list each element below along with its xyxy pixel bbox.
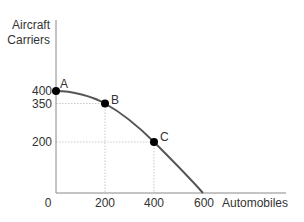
point-c-marker bbox=[150, 138, 158, 146]
point-c-label: C bbox=[160, 130, 169, 144]
point-a-label: A bbox=[60, 77, 68, 91]
point-b-marker bbox=[101, 100, 109, 108]
x-tick-200: 200 bbox=[95, 196, 115, 210]
guide-lines bbox=[56, 104, 154, 194]
x-tick-400: 400 bbox=[144, 196, 164, 210]
point-a-marker bbox=[52, 87, 60, 95]
x-tick-0: 0 bbox=[45, 196, 52, 210]
y-tick-200: 200 bbox=[32, 135, 52, 149]
ppf-chart: Aircraft Carriers A B C 400 350 200 0 20… bbox=[0, 0, 304, 222]
y-tick-350: 350 bbox=[32, 97, 52, 111]
point-b-label: B bbox=[111, 93, 119, 107]
x-axis-title: Automobiles bbox=[222, 196, 288, 210]
y-tick-400: 400 bbox=[32, 84, 52, 98]
y-axis-title-line1: Aircraft bbox=[12, 18, 51, 32]
y-axis-title-line2: Carriers bbox=[7, 33, 50, 47]
x-tick-600: 600 bbox=[194, 196, 214, 210]
